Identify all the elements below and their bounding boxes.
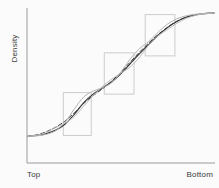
upper-transition-box xyxy=(145,15,175,56)
x-axis-tick-label-top: Top xyxy=(27,170,41,179)
density-curve-upper-envelope xyxy=(28,13,214,136)
density-chart: Density Top Bottom xyxy=(0,0,219,188)
density-curve-observed-density xyxy=(28,13,214,136)
x-axis-tick-label-bottom: Bottom xyxy=(186,170,213,179)
density-curve-fitted-density xyxy=(28,13,214,136)
chart-plot-area xyxy=(0,0,219,188)
density-curves-group xyxy=(28,13,214,136)
density-curve-lower-envelope xyxy=(28,13,214,136)
axes-group xyxy=(27,8,215,163)
y-axis-label: Density xyxy=(10,19,19,79)
